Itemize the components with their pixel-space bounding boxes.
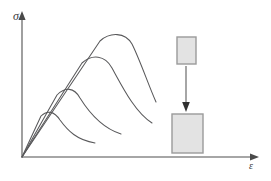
stress-strain-diagram <box>0 0 271 181</box>
stress-strain-curve-1 <box>22 112 95 157</box>
stress-strain-curve-4 <box>22 35 156 157</box>
specimen-after-rect <box>172 114 203 153</box>
figure-root: σ ε <box>0 0 271 181</box>
stress-strain-curve-3 <box>22 57 152 157</box>
stress-strain-curve-2 <box>22 89 121 157</box>
x-axis-label-epsilon: ε <box>249 161 253 171</box>
specimen-before-rect <box>177 37 196 64</box>
y-axis-label-sigma: σ <box>13 10 19 22</box>
deformation-arrow-head <box>182 102 190 112</box>
y-axis-arrowhead <box>18 11 25 20</box>
